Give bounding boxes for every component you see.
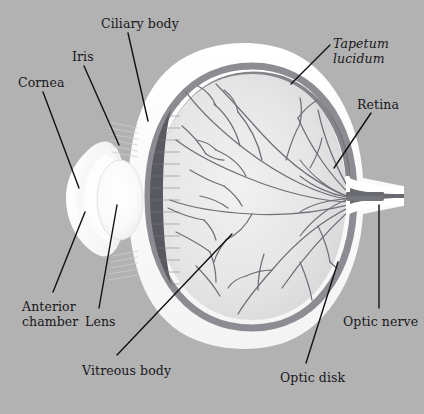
label-vitreous-body: Vitreous body — [82, 364, 171, 379]
label-cornea: Cornea — [18, 76, 65, 91]
leader-cornea — [43, 92, 79, 188]
label-anterior-chamber: Anterior chamber — [22, 300, 78, 329]
leader-optic-disk — [306, 262, 338, 363]
label-optic-disk: Optic disk — [280, 371, 345, 386]
leader-iris — [84, 66, 119, 145]
leader-retina — [334, 113, 371, 168]
leader-lens — [99, 205, 117, 308]
leader-vitreous-body — [117, 234, 232, 355]
label-iris: Iris — [72, 50, 94, 65]
leader-tapetum-lucidum — [291, 45, 330, 84]
eye-anatomy-figure: Ciliary body Tapetum lucidum Iris Cornea… — [0, 0, 424, 414]
label-tapetum-lucidum: Tapetum lucidum — [333, 37, 389, 66]
label-ciliary-body: Ciliary body — [101, 17, 179, 32]
leader-ciliary-body — [128, 33, 148, 121]
label-retina: Retina — [357, 98, 399, 113]
leader-anterior-chamber — [53, 212, 85, 292]
label-lens: Lens — [85, 315, 116, 330]
label-optic-nerve: Optic nerve — [343, 315, 418, 330]
